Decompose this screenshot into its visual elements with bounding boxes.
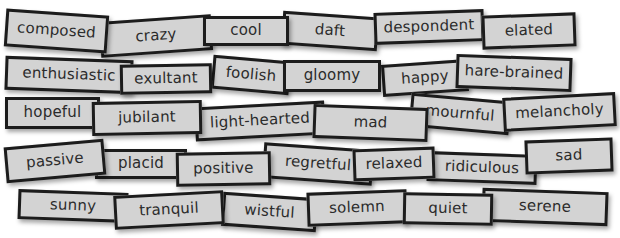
word-card-label: ridiculous <box>444 158 519 178</box>
word-card-label: placid <box>118 156 164 173</box>
word-card-label: solemn <box>329 199 385 218</box>
word-card-mad[interactable]: mad <box>312 104 428 142</box>
word-card-board: composedcrazycooldaftdespondentelatedent… <box>0 0 620 238</box>
word-card-enthusiastic[interactable]: enthusiastic <box>4 56 133 94</box>
word-card-cool[interactable]: cool <box>203 16 289 46</box>
word-card-crazy[interactable]: crazy <box>99 14 213 58</box>
word-card-ridiculous[interactable]: ridiculous <box>427 151 538 185</box>
word-card-serene[interactable]: serene <box>481 188 608 226</box>
word-card-placid[interactable]: placid <box>95 149 187 179</box>
word-card-jubilant[interactable]: jubilant <box>92 100 203 136</box>
word-card-label: mournful <box>425 103 495 126</box>
word-card-hare-brained[interactable]: hare-brained <box>455 54 572 92</box>
word-card-label: quiet <box>428 200 468 218</box>
word-card-label: elated <box>504 22 553 41</box>
word-card-label: jubilant <box>118 109 176 127</box>
word-card-light-hearted[interactable]: light-hearted <box>194 101 326 142</box>
word-card-foolish[interactable]: foolish <box>211 55 292 96</box>
word-card-despondent[interactable]: despondent <box>373 9 484 45</box>
word-card-label: happy <box>401 68 450 88</box>
word-card-label: relaxed <box>365 155 423 174</box>
word-card-hopeful[interactable]: hopeful <box>5 97 100 129</box>
word-card-exultant[interactable]: exultant <box>120 63 213 95</box>
word-card-label: hare-brained <box>464 63 563 83</box>
word-card-sunny[interactable]: sunny <box>18 189 129 223</box>
word-card-label: composed <box>17 20 97 42</box>
word-card-relaxed[interactable]: relaxed <box>352 147 435 182</box>
word-card-gloomy[interactable]: gloomy <box>283 60 381 92</box>
word-card-label: regretful <box>284 153 351 175</box>
word-card-sad[interactable]: sad <box>524 137 613 174</box>
word-card-label: sad <box>555 147 583 165</box>
word-card-label: sunny <box>50 197 97 216</box>
word-card-passive[interactable]: passive <box>4 139 107 184</box>
word-card-melancholy[interactable]: melancholy <box>502 92 617 132</box>
word-card-label: light-hearted <box>210 110 311 132</box>
word-card-quiet[interactable]: quiet <box>403 192 494 226</box>
word-card-wistful[interactable]: wistful <box>221 192 318 233</box>
word-card-positive[interactable]: positive <box>176 151 272 187</box>
word-card-label: melancholy <box>515 101 604 123</box>
word-card-tranquil[interactable]: tranquil <box>113 190 225 230</box>
word-card-daft[interactable]: daft <box>281 11 379 52</box>
word-card-label: gloomy <box>304 68 361 85</box>
word-card-label: enthusiastic <box>22 65 116 85</box>
word-card-label: hopeful <box>24 105 82 122</box>
word-card-label: positive <box>193 160 254 178</box>
word-card-label: crazy <box>135 26 177 46</box>
word-card-label: daft <box>314 21 346 40</box>
word-card-label: tranquil <box>139 200 200 220</box>
word-card-label: despondent <box>383 17 474 37</box>
word-card-elated[interactable]: elated <box>481 12 576 49</box>
word-card-label: wistful <box>244 202 296 222</box>
word-card-composed[interactable]: composed <box>4 8 109 53</box>
word-card-label: exultant <box>134 70 198 88</box>
word-card-label: passive <box>25 150 84 172</box>
word-card-label: cool <box>230 23 262 40</box>
word-card-label: serene <box>519 198 572 217</box>
word-card-solemn[interactable]: solemn <box>306 189 407 226</box>
word-card-label: mad <box>353 114 388 132</box>
word-card-label: foolish <box>225 64 277 85</box>
